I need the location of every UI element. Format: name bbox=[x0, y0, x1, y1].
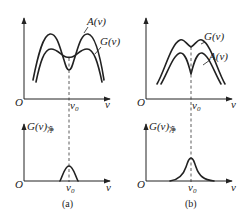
panel-b: O ν ν0 G(ν) A(ν) O ν ν0 G(ν)净 (b) bbox=[137, 18, 236, 210]
caption-b: (b) bbox=[185, 198, 197, 210]
leader-A bbox=[203, 60, 210, 65]
leader-G bbox=[201, 42, 205, 44]
x-axis-label: ν bbox=[231, 98, 236, 110]
origin-label: O bbox=[137, 96, 145, 108]
nu0-tick-label: ν0 bbox=[188, 181, 197, 195]
net-gain-peak-broad bbox=[170, 158, 214, 181]
y-axis-label: G(ν)净 bbox=[149, 120, 176, 134]
x-axis-label: ν bbox=[105, 98, 110, 110]
x-axis-label: ν bbox=[106, 181, 111, 193]
origin-label: O bbox=[15, 178, 23, 190]
caption-a: (a) bbox=[62, 198, 73, 210]
panel-b-bottom-axes: O ν ν0 G(ν)净 bbox=[137, 120, 236, 195]
panel-a-bottom-axes: O ν ν0 G(ν)净 bbox=[15, 120, 111, 195]
y-axis-label: G(ν)净 bbox=[27, 120, 54, 134]
leader-A bbox=[84, 27, 88, 33]
origin-label: O bbox=[15, 96, 23, 108]
origin-label: O bbox=[137, 178, 145, 190]
diagram-canvas: O ν ν0 A(ν) G(ν) O ν ν0 G(ν)净 (a) bbox=[0, 0, 252, 222]
x-axis-label: ν bbox=[231, 181, 236, 193]
nu0-tick-label: ν0 bbox=[66, 181, 75, 195]
nu0-tick-label: ν0 bbox=[70, 99, 79, 113]
curve-label-A: A(ν) bbox=[208, 50, 228, 63]
net-gain-peak-narrow bbox=[60, 166, 78, 181]
curve-label-A: A(ν) bbox=[86, 15, 106, 28]
nu0-tick-label: ν0 bbox=[192, 99, 201, 113]
panel-a-top-axes: O ν ν0 bbox=[15, 18, 110, 113]
curve-label-G: G(ν) bbox=[100, 35, 120, 48]
curve-label-G: G(ν) bbox=[204, 30, 224, 43]
panel-a: O ν ν0 A(ν) G(ν) O ν ν0 G(ν)净 (a) bbox=[15, 15, 120, 210]
